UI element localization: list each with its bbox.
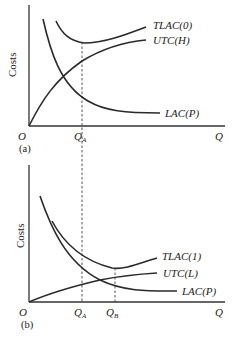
panel-b-tlac-label: TLAC(1)	[162, 250, 201, 263]
panel-b-utc-label: UTC(L)	[163, 267, 198, 280]
panel-a-tag: (a)	[19, 143, 31, 155]
panel-a-lac-curve	[43, 19, 160, 113]
panel-b-utc-curve	[29, 273, 157, 302]
panel-a-tlac-curve	[56, 21, 146, 43]
panel-a-lac-label: LAC(P)	[164, 107, 200, 120]
panel-b-origin-label: O	[19, 306, 27, 318]
panel-b-x-axis-label: Q	[215, 306, 223, 318]
panel-a-x-axis-label: Q	[215, 130, 223, 142]
panel-b-qa-label: QA	[74, 306, 87, 320]
panel-a-qa-label: QA	[74, 130, 87, 144]
panel-b-lac-label: LAC(P)	[181, 285, 217, 298]
panel-a-utc-curve	[29, 40, 146, 126]
panel-a-utc-label: UTC(H)	[153, 34, 190, 47]
panel-b-qb-label: QB	[106, 306, 119, 320]
diagram-canvas: Costs TLAC(0) UTC(H) LAC(P) O QA Q (a) C…	[0, 0, 241, 339]
panel-a-tlac-label: TLAC(0)	[153, 19, 192, 32]
panel-b-tag: (b)	[21, 319, 34, 331]
panel-a-y-axis-label: Costs	[6, 53, 18, 77]
panel-a-origin-label: O	[18, 130, 26, 142]
panel-b: Costs TLAC(1) UTC(L) LAC(P) O QA QB Q (b…	[14, 165, 225, 331]
panel-b-tlac-curve	[52, 221, 157, 268]
panel-b-lac-curve	[40, 196, 177, 291]
panel-b-y-axis-label: Costs	[14, 224, 26, 248]
